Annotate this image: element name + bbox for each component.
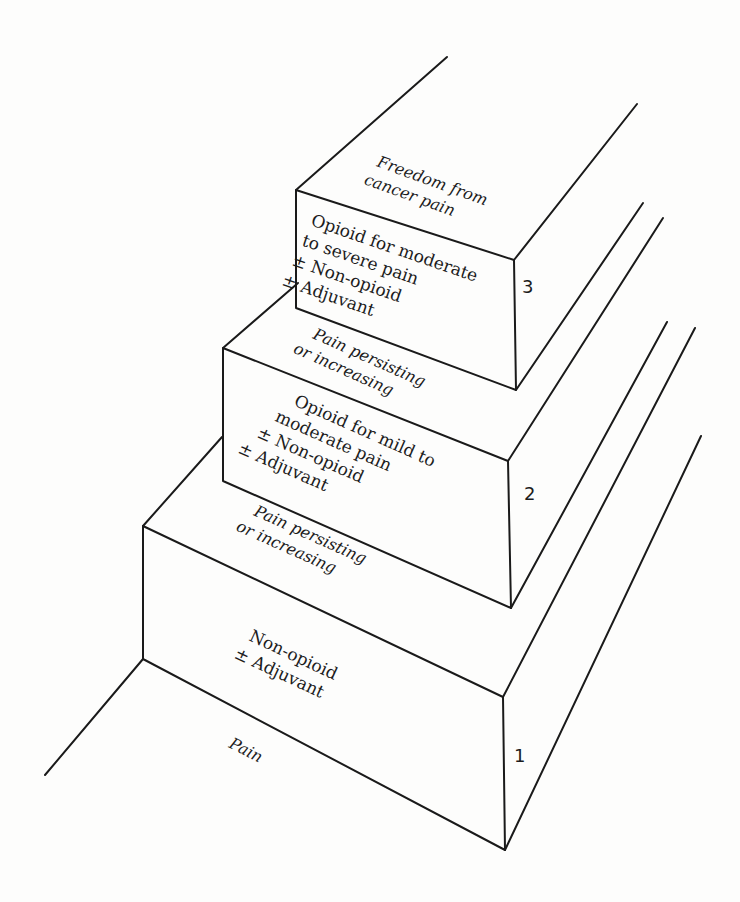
step-2-bottom-right-edge — [511, 322, 667, 608]
step-2-number: 2 — [524, 483, 535, 504]
analgesic-ladder-diagram: Pain Non-opioid ± Adjuvant 1 Pain persis… — [0, 0, 740, 902]
step-1-front-text: Non-opioid ± Adjuvant — [232, 623, 341, 704]
step-3-front-text: Opioid for moderate to severe pain ± Non… — [280, 207, 481, 348]
base-pain-label: Pain — [225, 733, 266, 766]
step-2-top-right-edge — [508, 218, 663, 461]
step-2-top-left-edge — [223, 283, 298, 348]
step-3-number: 3 — [522, 276, 533, 297]
step-1-top-left-edge — [143, 437, 222, 526]
step-3-top-right-edge — [514, 104, 637, 260]
step-1-block — [45, 328, 701, 850]
step-1-top-text: Pain persisting or increasing — [234, 497, 370, 587]
step-3-bottom-right-edge — [516, 203, 643, 390]
step-1-number: 1 — [514, 745, 525, 766]
step-1-top-right-edge — [503, 328, 695, 697]
floor-edge — [45, 659, 143, 775]
